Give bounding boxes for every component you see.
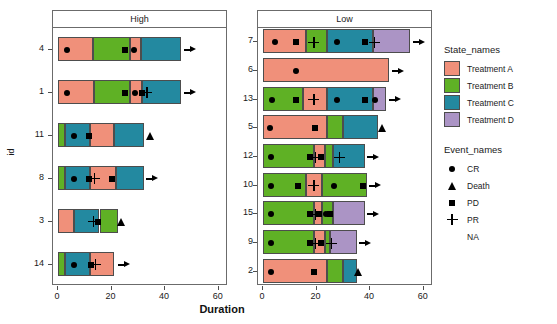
legend-item-event[interactable]: Death bbox=[444, 177, 554, 194]
legend-item-state[interactable]: Treatment D bbox=[444, 111, 554, 128]
legend-item-event[interactable]: NA bbox=[444, 228, 554, 245]
pr-plus-icon bbox=[308, 94, 319, 105]
swimmer-segment bbox=[58, 123, 65, 147]
y-axis-tick-label: 8 bbox=[4, 172, 44, 182]
pd-square-icon bbox=[86, 133, 92, 139]
plot-area-low bbox=[258, 28, 431, 284]
plot-area-high bbox=[53, 28, 226, 284]
pd-square-icon bbox=[293, 39, 299, 45]
cr-circle-icon bbox=[268, 183, 274, 189]
swimmer-segment bbox=[325, 144, 333, 168]
y-axis-tick-label: 4 bbox=[4, 43, 44, 53]
death-triangle-icon bbox=[444, 178, 460, 193]
legend-item-event[interactable]: PD bbox=[444, 194, 554, 211]
legend-item-label: Treatment C bbox=[467, 98, 514, 108]
pd-square-icon bbox=[362, 39, 368, 45]
y-axis-tick bbox=[48, 49, 52, 50]
y-axis-tick-label: 12 bbox=[237, 150, 253, 160]
ongoing-arrow-icon bbox=[359, 240, 371, 247]
y-axis-tick bbox=[253, 156, 257, 157]
y-axis-tick bbox=[253, 242, 257, 243]
pr-plus-icon bbox=[444, 212, 460, 227]
y-axis-tick-label: 15 bbox=[237, 207, 253, 217]
swimmer-lane bbox=[258, 87, 431, 113]
cr-circle-icon bbox=[331, 183, 337, 189]
legend-item-label: PR bbox=[467, 215, 479, 225]
ongoing-arrow-icon bbox=[389, 96, 401, 103]
x-axis-tick-label: 60 bbox=[408, 291, 438, 301]
x-axis-tick bbox=[316, 286, 317, 290]
pd-square-icon bbox=[311, 269, 317, 275]
y-axis-tick-label: 11 bbox=[4, 129, 44, 139]
y-axis-tick-label: 9 bbox=[237, 236, 253, 246]
y-axis-tick bbox=[48, 92, 52, 93]
swimmer-lane bbox=[258, 173, 431, 199]
x-axis-low: 0204060 bbox=[257, 286, 432, 306]
x-axis-tick-label: 60 bbox=[203, 291, 233, 301]
y-axis-tick bbox=[48, 178, 52, 179]
x-axis-tick bbox=[423, 286, 424, 290]
y-axis-tick bbox=[253, 213, 257, 214]
ongoing-arrow-icon bbox=[392, 68, 404, 75]
x-axis-tick-label: 20 bbox=[96, 291, 126, 301]
legend-swatch-icon bbox=[444, 61, 460, 76]
swimmer-plot: id Duration High Low 0204060 0204060 Sta… bbox=[0, 0, 557, 324]
pd-square-icon bbox=[327, 211, 333, 217]
swimmer-lane bbox=[53, 209, 226, 235]
y-axis-tick bbox=[48, 221, 52, 222]
ongoing-arrow-icon bbox=[369, 182, 381, 189]
cr-circle-icon bbox=[64, 47, 70, 53]
legend-item-state[interactable]: Treatment B bbox=[444, 77, 554, 94]
swimmer-segment bbox=[116, 166, 144, 190]
y-axis-tick-label: 14 bbox=[4, 258, 44, 268]
y-axis-tick-label: 6 bbox=[237, 64, 253, 74]
pd-square-icon bbox=[362, 97, 368, 103]
legend-item-label: NA bbox=[467, 232, 479, 242]
swimmer-segment bbox=[114, 123, 143, 147]
ongoing-arrow-icon bbox=[367, 154, 379, 161]
swimmer-lane bbox=[258, 58, 431, 84]
pr-plus-icon bbox=[141, 87, 152, 98]
ongoing-arrow-icon bbox=[118, 261, 130, 268]
cr-circle-icon bbox=[268, 269, 274, 275]
pr-plus-icon bbox=[89, 173, 100, 184]
pr-plus-icon bbox=[90, 259, 101, 270]
facet-strip-label-low: Low bbox=[336, 14, 353, 24]
death-triangle-icon bbox=[354, 268, 362, 276]
swimmer-segment bbox=[90, 123, 114, 147]
legend-spacer bbox=[444, 128, 554, 144]
legend-item-state[interactable]: Treatment C bbox=[444, 94, 554, 111]
swimmer-segment bbox=[58, 209, 74, 233]
swimmer-lane bbox=[258, 201, 431, 227]
legend-swatch-icon bbox=[444, 95, 460, 110]
swimmer-lane bbox=[258, 29, 431, 55]
cr-circle-icon bbox=[334, 39, 340, 45]
legend-item-state[interactable]: Treatment A bbox=[444, 60, 554, 77]
cr-circle-icon bbox=[268, 154, 274, 160]
y-axis-tick-label: 7 bbox=[237, 35, 253, 45]
state-legend-title: State_names bbox=[444, 44, 554, 55]
facet-strip-label-high: High bbox=[130, 14, 149, 24]
cr-circle-icon bbox=[71, 176, 77, 182]
x-axis-tick-label: 0 bbox=[247, 291, 277, 301]
x-axis-tick bbox=[262, 286, 263, 290]
swimmer-segment bbox=[327, 115, 343, 139]
swimmer-lane bbox=[258, 144, 431, 170]
x-axis-tick bbox=[369, 286, 370, 290]
x-axis-tick-label: 0 bbox=[42, 291, 72, 301]
y-axis-tick-label: 10 bbox=[237, 179, 253, 189]
legend-swatch-icon bbox=[444, 112, 460, 127]
legend-item-event[interactable]: PR bbox=[444, 211, 554, 228]
legend-marker-shape bbox=[449, 200, 455, 206]
legend-item-label: PD bbox=[467, 198, 479, 208]
pd-square-icon bbox=[109, 176, 115, 182]
y-axis-tick-label: 1 bbox=[4, 86, 44, 96]
pd-square-icon bbox=[312, 125, 318, 131]
cr-circle-icon bbox=[131, 47, 137, 53]
death-triangle-icon bbox=[146, 132, 154, 140]
swimmer-segment bbox=[58, 252, 65, 276]
x-axis-tick-label: 20 bbox=[301, 291, 331, 301]
legend-item-label: CR bbox=[467, 164, 479, 174]
swimmer-lane bbox=[258, 259, 431, 285]
legend-item-event[interactable]: CR bbox=[444, 160, 554, 177]
